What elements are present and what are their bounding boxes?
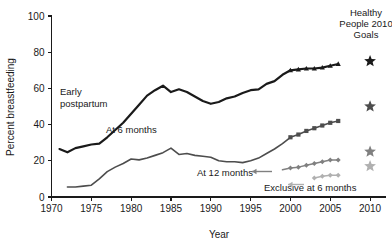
x-tick-label-1990: 1990 — [200, 203, 223, 214]
y-tick-label-40: 40 — [33, 119, 45, 130]
y-tick-label-60: 60 — [33, 83, 45, 94]
series-marker-at-6-months-2004 — [320, 123, 324, 127]
early-postpartum-label-line-1: Early — [60, 86, 82, 97]
series-marker-at-6-months-2005 — [328, 121, 332, 125]
breastfeeding-rates-chart: 020406080100 197019751980198519901995200… — [0, 0, 392, 246]
x-tick-label-1970: 1970 — [40, 203, 63, 214]
y-tick-label-0: 0 — [39, 192, 45, 203]
x-tick-label-2005: 2005 — [319, 203, 342, 214]
y-tick-label-80: 80 — [33, 47, 45, 58]
series-marker-at-6-months-2003 — [312, 126, 316, 130]
legend-title-line-3: Goals — [354, 29, 379, 40]
x-tick-label-2000: 2000 — [279, 203, 302, 214]
legend-title-line-2: People 2010 — [339, 18, 392, 29]
exclusive-at-6-months-label: Exclusive at 6 months — [264, 182, 357, 193]
at-6-months-label: At 6 months — [106, 124, 157, 135]
series-marker-at-6-months-2002 — [304, 129, 308, 133]
x-tick-label-1995: 1995 — [239, 203, 262, 214]
chart-canvas: 020406080100 197019751980198519901995200… — [0, 0, 392, 246]
x-tick-label-2010: 2010 — [359, 203, 382, 214]
early-postpartum-label-line-2: postpartum — [60, 98, 108, 109]
x-tick-label-1985: 1985 — [160, 203, 183, 214]
legend-title-line-1: Healthy — [350, 7, 382, 18]
x-tick-label-1980: 1980 — [120, 203, 143, 214]
series-marker-at-6-months-2001 — [296, 132, 300, 136]
x-axis-title: Year — [209, 229, 230, 240]
x-axis-ticks: 197019751980198519901995200020052010 — [40, 197, 381, 214]
series-marker-at-6-months-2006 — [336, 119, 340, 123]
at-12-months-label: At 12 months — [197, 167, 253, 178]
y-tick-label-20: 20 — [33, 155, 45, 166]
y-tick-label-100: 100 — [28, 11, 45, 22]
y-axis-title: Percent breastfeeding — [5, 58, 16, 156]
series-marker-at-6-months-2000 — [288, 135, 292, 139]
x-tick-label-1975: 1975 — [80, 203, 103, 214]
